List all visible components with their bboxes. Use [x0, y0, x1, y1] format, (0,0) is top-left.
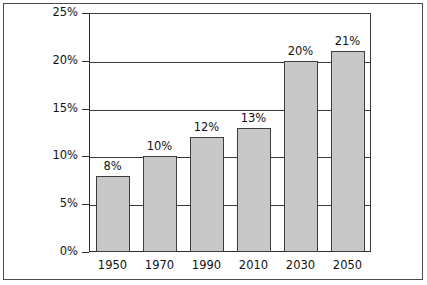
x-axis-labels: 195019701990201020302050 — [0, 0, 427, 285]
bar-chart-figure: 0%5%10%15%20%25% 8%10%12%13%20%21% 19501… — [0, 0, 427, 285]
x-axis-label-2050: 2050 — [318, 260, 378, 272]
